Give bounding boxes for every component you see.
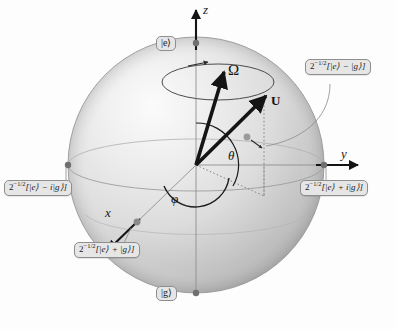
y-axis-label: y [341, 146, 347, 162]
pole-dot-minus-y [65, 162, 71, 168]
state-label-e-minus-ig-exponent: −1/2 [14, 180, 26, 187]
pole-dot-excited [193, 40, 199, 46]
bloch-sphere-graphics [0, 0, 396, 329]
state-label-e-plus-ig: 2−1/2[|e⟩ + i|g⟩] [300, 180, 368, 196]
south-pole-label: |g⟩ [156, 286, 177, 301]
phi-angle-label: φ [171, 191, 178, 207]
state-label-e-minus-g: 2−1/2[|e⟩ − |g⟩] [305, 59, 371, 75]
state-label-e-plus-g-exponent: −1/2 [84, 242, 96, 249]
north-pole-label: |e⟩ [156, 36, 176, 51]
x-axis-label: x [105, 205, 111, 221]
state-label-e-minus-ig: 2−1/2[|e⟩ − i|g⟩] [4, 180, 72, 196]
state-label-e-minus-g-exponent: −1/2 [315, 59, 327, 66]
state-label-e-plus-g: 2−1/2[|e⟩ + |g⟩] [74, 242, 140, 258]
pole-dot-plus-x [134, 219, 141, 226]
state-label-e-plus-ig-exponent: −1/2 [310, 180, 322, 187]
state-label-e-minus-g-expression: [|e⟩ − |g⟩] [326, 61, 365, 71]
theta-angle-label: θ [228, 148, 234, 164]
bloch-sphere-figure: z y x Ω U θ φ |e⟩ |g⟩ 2−1/2[|e⟩ − |g⟩] 2… [0, 0, 396, 329]
pole-dot-plus-y [321, 162, 327, 168]
state-label-e-plus-ig-expression: [|e⟩ + i|g⟩] [321, 182, 363, 192]
omega-vector-label: Ω [228, 62, 239, 79]
pole-dot-minus-x [244, 134, 251, 141]
u-vector-label: U [271, 93, 280, 109]
z-axis-label: z [203, 2, 208, 18]
pole-dot-ground [193, 290, 199, 296]
state-label-e-plus-g-expression: [|e⟩ + |g⟩] [95, 244, 134, 254]
state-label-e-minus-ig-expression: [|e⟩ − i|g⟩] [25, 182, 67, 192]
